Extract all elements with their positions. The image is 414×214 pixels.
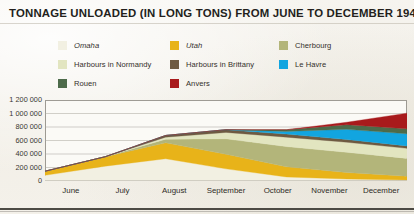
legend-swatch-icon — [279, 41, 288, 50]
y-axis-tick-label: 400 000 — [1, 150, 42, 158]
legend-item-harbours-in-normandy: Harbours in Normandy — [58, 60, 151, 69]
legend-item-cherbourg: Cherbourg — [279, 41, 331, 50]
legend-swatch-icon — [170, 41, 179, 50]
legend-item-label: Rouen — [74, 79, 97, 88]
y-axis-tick-label: 600 000 — [1, 137, 42, 145]
legend-item-le-havre: Le Havre — [279, 60, 326, 69]
y-axis: 0200 000400 000600 000800 0001 000 0001 … — [0, 100, 42, 181]
legend-item-anvers: Anvers — [170, 79, 210, 88]
legend-item-label: Harbours in Normandy — [74, 60, 151, 69]
title-divider — [0, 23, 414, 24]
legend-swatch-icon — [58, 60, 67, 69]
legend-item-label: Harbours in Brittany — [186, 60, 254, 69]
legend-item-harbours-in-brittany: Harbours in Brittany — [170, 60, 254, 69]
legend-swatch-icon — [58, 79, 67, 88]
chart-figure: TONNAGE UNLOADED (IN LONG TONS) FROM JUN… — [0, 0, 414, 214]
legend-swatch-icon — [170, 79, 179, 88]
y-axis-tick-label: 1 000 000 — [1, 110, 42, 118]
legend-item-utah: Utah — [170, 41, 202, 50]
footer-divider-light — [0, 211, 414, 212]
stacked-area-series — [45, 100, 407, 181]
legend-item-label: Omaha — [74, 41, 99, 50]
x-axis: JuneJulyAugustSeptemberOctoberNovemberDe… — [45, 186, 407, 198]
legend-item-label: Le Havre — [295, 60, 326, 69]
footer-divider — [0, 208, 414, 210]
legend-swatch-icon — [170, 60, 179, 69]
plot-area — [45, 100, 407, 181]
legend-swatch-icon — [58, 41, 67, 50]
legend-item-label: Anvers — [186, 79, 210, 88]
y-axis-tick-label: 200 000 — [1, 164, 42, 172]
y-axis-tick-label: 0 — [1, 177, 42, 185]
chart-legend: OmahaHarbours in NormandyRouenUtahHarbou… — [58, 41, 408, 89]
legend-item-rouen: Rouen — [58, 79, 97, 88]
y-axis-tick-label: 800 000 — [1, 123, 42, 131]
y-axis-tick-label: 1 200 000 — [1, 96, 42, 104]
chart-title: TONNAGE UNLOADED (IN LONG TONS) FROM JUN… — [9, 6, 408, 20]
legend-item-label: Utah — [186, 41, 202, 50]
x-axis-tick-label: December — [351, 186, 411, 196]
legend-item-label: Cherbourg — [295, 41, 331, 50]
legend-swatch-icon — [279, 60, 288, 69]
legend-item-omaha: Omaha — [58, 41, 99, 50]
